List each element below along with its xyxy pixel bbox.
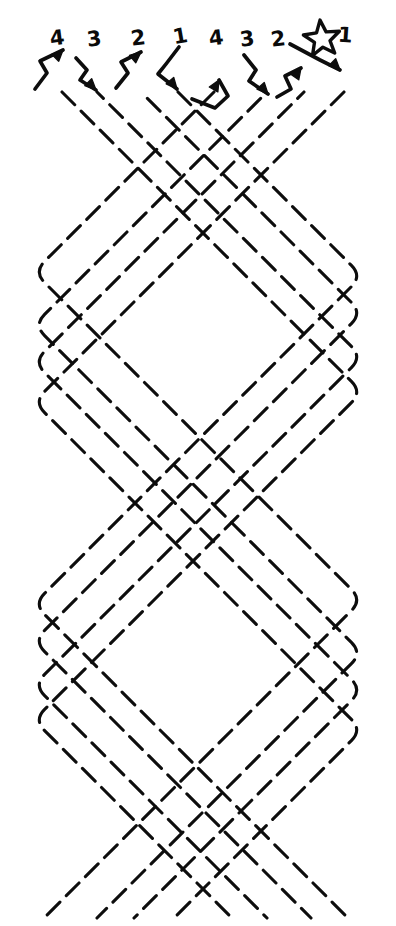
strand-label-7: 1 — [337, 25, 353, 47]
strand-paths — [39, 92, 356, 918]
arrow-strand-3-left-head — [85, 79, 96, 90]
strand-path-2-6 — [39, 92, 356, 918]
strand-label-1: 3 — [86, 28, 103, 51]
strand-path-4-4 — [39, 92, 356, 918]
strand-label-2: 2 — [130, 27, 147, 50]
start-arrow-group — [35, 44, 340, 108]
strand-label-4: 4 — [208, 27, 225, 50]
star-marker-group — [303, 20, 339, 55]
strand-path-2-2 — [39, 92, 356, 918]
diagram-canvas: 43214321 — [0, 0, 396, 926]
strand-path-3-5 — [39, 92, 356, 918]
strand-path-4-0 — [39, 92, 356, 918]
arrow-strand-4-right-head — [209, 80, 219, 92]
star-icon — [303, 20, 339, 55]
arrow-strand-1-star-head — [329, 59, 340, 70]
braid-diagram-svg — [0, 0, 396, 926]
arrow-strand-2-left-head — [130, 52, 142, 63]
strand-path-1-7 — [39, 92, 356, 918]
strand-path-3-1 — [39, 92, 356, 918]
strand-label-5: 3 — [239, 28, 256, 51]
strand-label-6: 2 — [270, 28, 287, 51]
strand-label-0: 4 — [49, 27, 66, 50]
arrow-strand-3-right-head — [257, 83, 268, 94]
arrow-strand-1-left-head — [166, 78, 177, 90]
strand-path-1-3 — [39, 92, 356, 918]
arrow-strand-4-left-head — [52, 50, 63, 61]
